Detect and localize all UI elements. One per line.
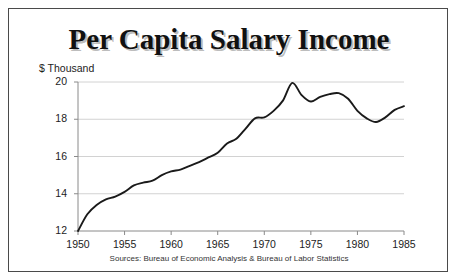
- y-tick-label: 18: [45, 112, 67, 124]
- source-note: Sources: Bureau of Economic Analysis & B…: [9, 254, 449, 263]
- figure-border: Per Capita Salary Income $ Thousand 1214…: [8, 8, 448, 272]
- x-tick-label: 1960: [151, 238, 191, 250]
- y-tick-label: 12: [45, 224, 67, 236]
- x-tick-label: 1965: [198, 238, 238, 250]
- x-tick-label: 1985: [384, 238, 424, 250]
- plot-area: 1214161820 19501955196019651970197519801…: [9, 9, 449, 273]
- x-tick-label: 1950: [58, 238, 98, 250]
- chart-figure: Per Capita Salary Income $ Thousand 1214…: [0, 0, 456, 280]
- x-tick-label: 1980: [337, 238, 377, 250]
- y-tick-label: 16: [45, 150, 67, 162]
- y-tick-marks: [74, 82, 78, 231]
- x-tick-label: 1955: [105, 238, 145, 250]
- plot-svg: [9, 9, 449, 273]
- y-tick-label: 14: [45, 187, 67, 199]
- y-tick-label: 20: [45, 75, 67, 87]
- gridlines: [78, 82, 404, 194]
- x-tick-label: 1975: [291, 238, 331, 250]
- x-tick-marks: [78, 231, 404, 235]
- x-tick-label: 1970: [244, 238, 284, 250]
